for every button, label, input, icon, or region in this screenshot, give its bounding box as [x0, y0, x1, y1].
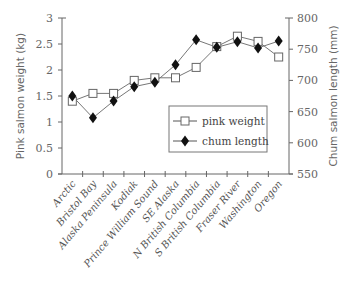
- right-axis-title: Chum salmon length (mm): [327, 25, 339, 166]
- left-tick-label: 1.5: [36, 90, 54, 103]
- square-marker: [275, 53, 283, 61]
- right-tick-label: 550: [297, 168, 318, 181]
- legend-label: chum length: [202, 135, 269, 147]
- legend-label: pink weight: [202, 115, 266, 127]
- right-tick-label: 800: [297, 12, 318, 25]
- square-marker: [192, 63, 200, 71]
- left-tick-label: 2.5: [36, 38, 54, 51]
- left-tick-label: 0: [46, 168, 53, 181]
- square-marker: [181, 117, 189, 125]
- left-tick-label: 0.5: [36, 142, 54, 155]
- square-marker: [172, 74, 180, 82]
- right-tick-label: 700: [297, 74, 318, 87]
- left-tick-label: 3: [46, 12, 53, 25]
- left-axis-title: Pink salmon weight (kg): [14, 33, 26, 159]
- right-tick-label: 750: [297, 43, 318, 56]
- legend: pink weightchum length: [169, 106, 269, 152]
- diamond-marker: [89, 112, 97, 123]
- chart: 00.511.522.53550600650700750800ArcticBri…: [0, 0, 352, 288]
- right-tick-label: 650: [297, 106, 318, 119]
- right-tick-label: 600: [297, 137, 318, 150]
- left-tick-label: 2: [46, 64, 53, 77]
- square-marker: [89, 89, 97, 97]
- left-tick-label: 1: [46, 116, 53, 129]
- diamond-marker: [275, 36, 283, 47]
